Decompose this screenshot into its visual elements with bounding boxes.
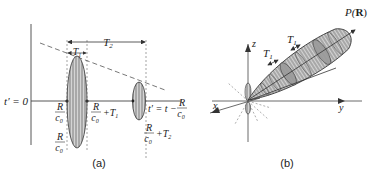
t-prime-zero-label: t′ = 0 — [4, 95, 28, 107]
svg-text:c0: c0 — [91, 112, 98, 124]
direction-ray — [248, 30, 355, 100]
r-over-c0-plus-t2-label: R c0 +T2 — [144, 122, 171, 145]
svg-text:R: R — [145, 122, 152, 133]
svg-text:c0: c0 — [177, 108, 184, 120]
pulse-1 — [67, 56, 87, 148]
pulse-2 — [133, 82, 146, 120]
svg-text:c0: c0 — [55, 112, 62, 124]
caption-b: (b) — [280, 157, 293, 169]
t-prime-retarded-label: t′ = t − R c0 — [148, 97, 187, 120]
r-over-c0-lower-label: R c0 — [55, 131, 65, 154]
svg-text:c0: c0 — [55, 142, 62, 154]
t2-label: T2 — [103, 36, 113, 50]
svg-text:+T2: +T2 — [156, 128, 171, 140]
panel-a: T2 T1 t′ = 0 R c0 R c0 R c0 +T1 t′ = t − — [4, 24, 187, 169]
svg-text:R: R — [56, 131, 63, 142]
x-axis-label: x — [212, 100, 218, 111]
svg-text:c0: c0 — [144, 133, 151, 145]
t1-label-inner: T1 — [263, 47, 273, 61]
decay-envelope-line — [40, 43, 165, 90]
t1-label: T1 — [73, 46, 82, 58]
figure-canvas: T2 T1 t′ = 0 R c0 R c0 R c0 +T1 t′ = t − — [0, 0, 376, 182]
svg-text:+T1: +T1 — [103, 107, 118, 119]
caption-a: (a) — [92, 157, 105, 169]
svg-text:R: R — [92, 101, 99, 112]
t1-label-outer: T1 — [287, 33, 297, 47]
point-p-label: P(R) — [344, 6, 367, 19]
svg-text:R: R — [178, 97, 185, 108]
panel-b: T1 T1 P(R) z x y (b) — [210, 6, 367, 169]
r-over-c0-plus-t1-label: R c0 +T1 — [91, 101, 118, 124]
svg-text:R: R — [56, 101, 63, 112]
r-over-c0-label: R c0 — [55, 101, 65, 124]
z-axis-label: z — [251, 38, 256, 49]
svg-text:t′ = t −: t′ = t − — [148, 103, 177, 114]
y-axis-label: y — [338, 102, 344, 113]
